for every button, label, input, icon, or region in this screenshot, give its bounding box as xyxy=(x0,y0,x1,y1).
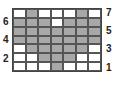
chart-cell xyxy=(76,9,89,18)
chart-cell xyxy=(76,27,89,36)
chart-cell xyxy=(13,9,26,18)
chart-cell xyxy=(38,9,51,18)
row-label-4: 4 xyxy=(3,35,9,45)
chart-cell xyxy=(13,18,26,27)
row-label-5: 5 xyxy=(106,26,112,36)
chart-cell xyxy=(26,44,39,53)
chart-cell xyxy=(88,18,101,27)
chart-cell xyxy=(88,27,101,36)
chart-cell xyxy=(51,27,64,36)
chart-cell xyxy=(38,62,51,71)
chart-cell xyxy=(88,44,101,53)
chart-cell xyxy=(13,62,26,71)
chart-cell xyxy=(88,36,101,45)
chart-cell xyxy=(76,18,89,27)
chart-cell xyxy=(13,36,26,45)
chart-cell xyxy=(26,36,39,45)
chart-cell xyxy=(26,53,39,62)
chart-cell xyxy=(26,27,39,36)
row-label-6: 6 xyxy=(3,17,9,27)
chart-cell xyxy=(88,9,101,18)
chart-cell xyxy=(13,53,26,62)
chart-cell xyxy=(76,62,89,71)
chart-cell xyxy=(38,44,51,53)
chart-cell xyxy=(51,9,64,18)
chart-cell xyxy=(38,36,51,45)
chart-cell xyxy=(76,53,89,62)
chart-cell xyxy=(51,18,64,27)
row-label-7: 7 xyxy=(106,8,112,18)
chart-cell xyxy=(76,36,89,45)
chart-cell xyxy=(38,18,51,27)
chart-cell xyxy=(26,9,39,18)
chart-cell xyxy=(63,36,76,45)
chart-cell xyxy=(51,53,64,62)
chart-cell xyxy=(63,62,76,71)
row-label-2: 2 xyxy=(3,54,9,64)
chart-cell xyxy=(26,62,39,71)
chart-cell xyxy=(38,53,51,62)
chart-cell xyxy=(13,27,26,36)
chart-cell xyxy=(63,18,76,27)
row-label-1: 1 xyxy=(106,63,112,73)
heart-knitting-chart xyxy=(12,8,102,72)
row-label-3: 3 xyxy=(106,44,112,54)
chart-cell xyxy=(51,36,64,45)
chart-cell xyxy=(51,62,64,71)
chart-cell xyxy=(38,27,51,36)
chart-cell xyxy=(63,53,76,62)
chart-cell xyxy=(51,44,64,53)
chart-cell xyxy=(63,27,76,36)
chart-cell xyxy=(63,9,76,18)
chart-cell xyxy=(88,53,101,62)
chart-cell xyxy=(26,18,39,27)
chart-cell xyxy=(63,44,76,53)
chart-cell xyxy=(76,44,89,53)
chart-cell xyxy=(13,44,26,53)
chart-cell xyxy=(88,62,101,71)
